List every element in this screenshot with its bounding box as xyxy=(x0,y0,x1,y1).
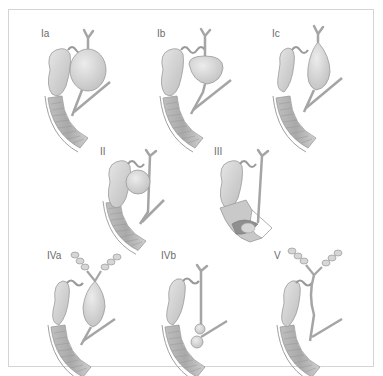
panel-type-ivb: IVb xyxy=(147,245,247,357)
panel-type-ib: Ib xyxy=(145,20,245,130)
panel-type-iii: III xyxy=(200,142,300,242)
choledochal-cyst-v-illustration xyxy=(262,245,362,357)
choledochal-cyst-ii-illustration xyxy=(88,142,188,242)
choledochal-cyst-iva-illustration xyxy=(33,245,133,357)
panel-type-iva: IVa xyxy=(33,245,133,357)
choledochal-cyst-ic-illustration xyxy=(258,20,358,130)
choledochal-cyst-ib-illustration xyxy=(145,20,245,130)
panel-type-ia: Ia xyxy=(30,20,130,130)
choledochal-cyst-ivb-illustration xyxy=(147,245,247,357)
panel-type-v: V xyxy=(262,245,362,357)
panel-type-ii: II xyxy=(88,142,188,242)
choledochal-cyst-ia-illustration xyxy=(30,20,130,130)
panel-type-ic: Ic xyxy=(258,20,358,130)
choledochal-cyst-iii-illustration xyxy=(200,142,300,242)
